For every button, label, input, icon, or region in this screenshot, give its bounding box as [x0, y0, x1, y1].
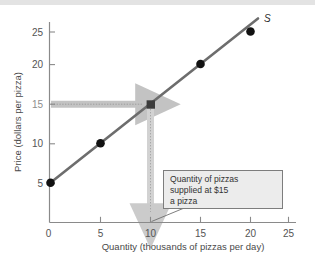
data-point-e: [246, 27, 255, 36]
supply-curve-figure: 25 20 15 10 5 0 5 10 15 20 25 Quantity (…: [0, 0, 315, 259]
callout-line-2: supplied at $15: [170, 185, 229, 195]
x-tick-label-10: 10: [145, 228, 157, 239]
supply-curve-label: S: [264, 13, 271, 24]
x-axis-ticks: [101, 217, 289, 223]
data-point-c-highlight: [147, 100, 155, 108]
callout-line-3: a pizza: [170, 196, 197, 206]
y-tick-label-25: 25: [32, 27, 44, 38]
x-axis-title: Quantity (thousands of pizzas per day): [102, 241, 265, 252]
y-tick-label-15: 15: [32, 99, 44, 110]
data-point-a: [46, 179, 55, 188]
callout-leader-line: [152, 209, 184, 222]
x-tick-label-0: 0: [46, 228, 52, 239]
x-tick-label-25: 25: [283, 228, 295, 239]
data-point-b: [96, 139, 105, 148]
y-tick-label-20: 20: [32, 59, 44, 70]
supply-chart-svg: 25 20 15 10 5 0 5 10 15 20 25 Quantity (…: [0, 0, 315, 259]
x-tick-label-15: 15: [195, 228, 207, 239]
x-tick-label-20: 20: [245, 228, 257, 239]
y-tick-label-5: 5: [37, 178, 43, 189]
y-axis-title: Price (dollars per pizza): [12, 72, 23, 172]
x-tick-label-5: 5: [98, 228, 104, 239]
data-point-d: [196, 60, 205, 69]
callout-box: Quantity of pizzas supplied at $15 a piz…: [164, 171, 283, 209]
callout-line-1: Quantity of pizzas: [170, 174, 238, 184]
y-tick-label-10: 10: [32, 138, 44, 149]
